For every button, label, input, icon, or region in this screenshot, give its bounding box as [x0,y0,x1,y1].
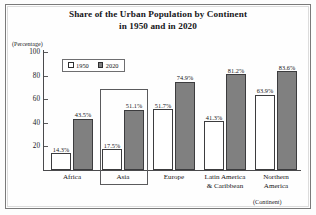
y-tick-label: 20 [18,142,40,150]
page-title: Share of the Urban Population by Contine… [20,9,296,32]
legend-item[interactable]: 2020 [98,62,119,69]
gray-square-icon [98,62,104,68]
bar-group: 63.9%83.6% [253,52,299,170]
x-category-label: Africa [43,173,101,182]
y-tick-label: 80 [18,72,40,80]
bar-value-label: 51.1% [126,102,142,109]
bar-1950[interactable]: 14.3% [51,153,71,170]
x-axis-line [43,170,301,171]
white-square-icon [68,62,74,68]
x-category-label: Asia [94,173,152,182]
bar-value-label: 51.7% [155,102,171,109]
legend-item-label: 1950 [76,62,89,69]
chart-title-line2: in 1950 and in 2020 [20,21,296,33]
bar-1950[interactable]: 63.9% [255,95,275,170]
x-category-label-line: Asia [94,173,152,182]
x-category-label-line: & Caribbean [196,182,254,191]
bar-value-label: 17.5% [104,142,120,149]
x-category-label-line: America [247,182,305,191]
chart-title-line1: Share of the Urban Population by Contine… [69,9,247,19]
y-axis-unit-label: (Percentage) [12,41,43,47]
x-axis-unit-label: (Continent) [253,198,282,205]
chart-screenshot: Share of the Urban Population by Contine… [0,0,316,215]
x-category-label: Latin America& Caribbean [196,173,254,190]
bar-1950[interactable]: 41.3% [204,121,224,170]
x-category-label: Europe [145,173,203,182]
legend-item[interactable]: 1950 [68,62,89,69]
bar-value-label: 41.3% [206,114,222,121]
bar-value-label: 43.5% [75,111,91,118]
x-category-label-line: Africa [43,173,101,182]
x-category-label-line: Northern [247,173,305,182]
bar-group: 41.3%81.2% [202,52,248,170]
bar-1950[interactable]: 51.7% [153,109,173,170]
bar-value-label: 63.9% [257,87,273,94]
bar-2020[interactable]: 81.2% [226,74,246,170]
bar-group: 51.7%74.9% [151,52,197,170]
bar-2020[interactable]: 83.6% [277,71,297,170]
bar-2020[interactable]: 51.1% [124,110,144,170]
x-category-label-line: Latin America [196,173,254,182]
chart-legend: 19502020 [62,59,125,72]
x-category-label-line: Europe [145,173,203,182]
bar-value-label: 81.2% [228,67,244,74]
legend-item-label: 2020 [106,62,119,69]
bar-value-label: 14.3% [53,146,69,153]
bar-1950[interactable]: 17.5% [102,149,122,170]
y-tick-label: 60 [18,95,40,103]
bar-value-label: 83.6% [279,64,295,71]
bar-2020[interactable]: 74.9% [175,82,195,170]
y-tick-label: 40 [18,119,40,127]
bar-value-label: 74.9% [177,74,193,81]
bar-2020[interactable]: 43.5% [73,119,93,170]
x-category-label: NorthernAmerica [247,173,305,190]
y-tick-label: 100 [18,48,40,56]
